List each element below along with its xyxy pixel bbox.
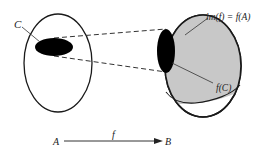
arrowhead-icon: [154, 138, 163, 144]
label-fc: f(C): [216, 83, 231, 94]
function-image-diagram: C im(f) = f(A) f(C) A f B: [0, 0, 273, 156]
label-image: im(f) = f(A): [206, 12, 250, 23]
label-c: C: [14, 18, 22, 30]
label-a: A: [52, 136, 60, 147]
label-b: B: [165, 136, 171, 147]
domain-set-a: [24, 14, 92, 112]
image-of-subset-fc: [157, 29, 175, 73]
subset-c: [35, 38, 73, 56]
label-f: f: [112, 129, 116, 140]
